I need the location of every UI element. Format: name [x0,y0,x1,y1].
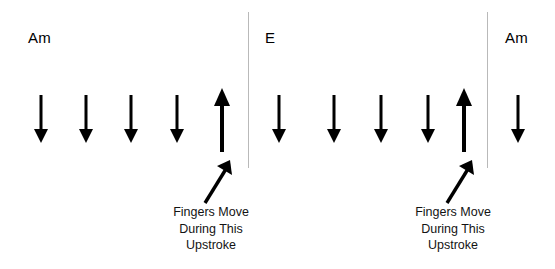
downstroke-arrow-icon [509,95,527,143]
caption-line: Fingers Move [383,204,523,221]
downstroke-arrow-icon [325,95,343,143]
downstroke-arrow-icon [122,95,140,143]
downstroke-arrow-icon [168,95,186,143]
measure-divider-1 [248,12,249,168]
strumming-pattern-diagram: AmEAmFingers MoveDuring ThisUpstrokeFing… [0,0,555,269]
measure-divider-2 [487,12,488,168]
upstroke-arrow-icon [454,88,474,152]
caption-line: Upstroke [383,237,523,254]
caption-line: During This [383,221,523,238]
upstroke-annotation-right: Fingers MoveDuring ThisUpstroke [383,204,523,254]
upstroke-arrow-icon [212,88,232,152]
downstroke-arrow-icon [270,95,288,143]
downstroke-arrow-icon [77,95,95,143]
caption-line: Fingers Move [141,204,281,221]
diagonal-pointer-arrow-icon [441,160,477,206]
chord-label: Am [505,30,528,45]
caption-line: Upstroke [141,237,281,254]
chord-label: E [265,30,275,45]
downstroke-arrow-icon [32,95,50,143]
diagonal-pointer-arrow-icon [199,160,235,206]
upstroke-annotation-left: Fingers MoveDuring ThisUpstroke [141,204,281,254]
downstroke-arrow-icon [419,95,437,143]
chord-label: Am [28,30,51,45]
caption-line: During This [141,221,281,238]
downstroke-arrow-icon [372,95,390,143]
